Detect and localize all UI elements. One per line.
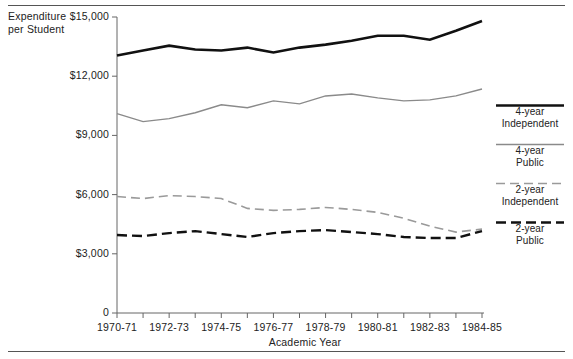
legend-item: 4-yearIndependent	[492, 96, 568, 129]
legend-line-swatch	[496, 213, 564, 222]
legend-label-line2: Public	[492, 157, 568, 169]
legend-swatch-icon	[496, 218, 564, 227]
series-line-1	[117, 89, 482, 122]
series-line-2	[117, 196, 482, 233]
legend-line-swatch	[496, 174, 564, 183]
legend-label-line2: Independent	[492, 196, 568, 208]
series-line-0	[117, 21, 482, 56]
legend-line-swatch	[496, 135, 564, 144]
chart-legend: 4-yearIndependent4-yearPublic2-yearIndep…	[492, 96, 568, 252]
series-line-3	[117, 230, 482, 238]
legend-line-swatch	[496, 96, 564, 105]
legend-item: 2-yearIndependent	[492, 174, 568, 207]
legend-item: 4-yearPublic	[492, 135, 568, 168]
legend-swatch-icon	[496, 140, 564, 149]
legend-item: 2-yearPublic	[492, 213, 568, 246]
plot-area	[0, 0, 573, 359]
legend-swatch-icon	[496, 179, 564, 188]
legend-label-line2: Independent	[492, 118, 568, 130]
chart-figure: Expenditure per Student $15,000$12,000$9…	[0, 0, 573, 359]
legend-label-line2: Public	[492, 235, 568, 247]
legend-swatch-icon	[496, 101, 564, 110]
